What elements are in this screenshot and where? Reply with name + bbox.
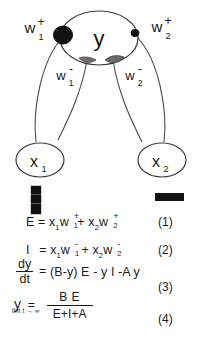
weight-label-w1-plus-base: w — [24, 19, 36, 36]
equations-panel: E = x1w+1 + x2w+2 (1) I = x1w-1 + x2w-2 … — [0, 182, 198, 356]
equation-4-number: (4) — [158, 312, 173, 326]
weight-label-w2-plus-sup: + — [164, 14, 171, 28]
eq2-term2-w: w-2 — [103, 243, 117, 257]
weight-label-w1-plus-sup: + — [37, 15, 44, 29]
eq1-equals: = — [38, 215, 45, 229]
edge-x2-to-y-excitatory — [138, 38, 165, 142]
eq1-term2-w-sup: + — [113, 211, 118, 221]
eq1-term1-w-sup: + — [74, 211, 79, 221]
eq2-lhs: I — [26, 243, 36, 257]
weight-label-w2-plus-sub: 2 — [165, 31, 170, 41]
node-x1 — [16, 143, 64, 177]
horizontal-black-bar — [155, 193, 184, 201]
eq1-term2-w-base: w — [99, 215, 108, 229]
vertical-black-bar — [30, 185, 42, 215]
weight-label-w2-minus-sup: - — [138, 62, 142, 76]
eq4-numerator: B E — [47, 290, 93, 306]
eq2-term2-w-base: w — [103, 243, 112, 257]
eq3-numerator: dy — [16, 257, 33, 272]
eq2-term1-w: w-1 — [61, 243, 75, 257]
equation-3-number: (3) — [158, 280, 173, 294]
eq2-term2-w-sup: - — [117, 239, 120, 249]
network-diagram: y x 1 x 2 w + 1 w + 2 w - 1 w - 2 — [0, 0, 198, 182]
eq4-fraction: B E E+I+A — [47, 290, 93, 321]
eq1-term2-w-sub: 2 — [113, 221, 117, 230]
equation-1-body: E = x1w+1 + x2w+2 — [26, 215, 113, 229]
node-label-y: y — [94, 26, 105, 51]
edge-x1-to-y-excitatory — [35, 38, 62, 142]
eq1-term1-w: w+1 — [60, 215, 74, 229]
eq1-term1-w-sub: 1 — [74, 221, 78, 230]
eq3-denominator: dt — [16, 272, 33, 286]
eq1-term2-w: w+2 — [99, 215, 113, 229]
eq2-plus: + — [79, 243, 89, 257]
eq3-rhs: (B-y) E - y I -A y — [50, 264, 140, 278]
eq4-limit-annotation: lim t → ∞ — [12, 307, 40, 314]
eq4-limit-group: y lim t → ∞ — [14, 296, 21, 312]
weight-label-w1-minus-base: w — [55, 68, 66, 83]
weight-label-w1-minus-sub: 1 — [69, 78, 74, 88]
weight-label-w2-plus-base: w — [151, 18, 163, 35]
eq1-lhs: E — [26, 215, 34, 229]
node-label-x1-sub: 1 — [41, 164, 46, 174]
equation-2-body: I = x1w-1 + x2w-2 — [26, 243, 117, 257]
weight-label-w2-minus-sub: 2 — [138, 78, 143, 88]
weight-label-w1-minus-sup: - — [69, 62, 73, 76]
node-label-x2-sub: 2 — [163, 164, 168, 174]
eq3-equals: = — [37, 264, 46, 278]
equation-3-body: dy dt = (B-y) E - y I -A y — [16, 258, 140, 287]
eq2-term1-w-base: w — [61, 243, 70, 257]
weight-label-w1-plus-sub: 1 — [38, 32, 43, 42]
weight-label-w2-minus-base: w — [124, 68, 135, 83]
synapse-excitatory-left — [54, 26, 73, 44]
eq2-term1-w-sup: - — [75, 239, 78, 249]
synapse-excitatory-right — [131, 29, 139, 36]
figure-panel: y x 1 x 2 w + 1 w + 2 w - 1 w - 2 — [0, 0, 198, 356]
equation-4-body: y lim t → ∞ = B E E+I+A — [14, 291, 93, 322]
eq2-equals: = — [39, 243, 46, 257]
eq4-denominator: E+I+A — [47, 306, 93, 321]
node-x2 — [138, 143, 186, 177]
equation-1-number: (1) — [158, 215, 173, 229]
node-label-x1: x — [30, 153, 38, 170]
eq1-term1-w-base: w — [60, 215, 69, 229]
eq3-derivative-fraction: dy dt — [16, 257, 33, 286]
node-label-x2: x — [152, 153, 160, 170]
equation-2-number: (2) — [158, 243, 173, 257]
